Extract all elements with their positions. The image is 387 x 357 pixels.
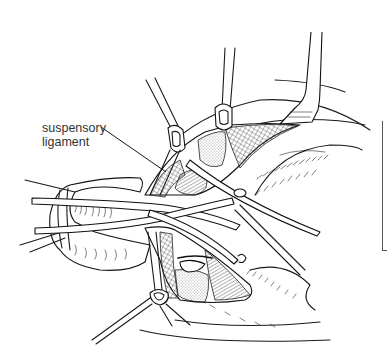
label-line-2: ligament: [42, 135, 89, 149]
label-leader-line: [101, 127, 166, 172]
suspensory-ligament-label: suspensory ligament: [42, 121, 106, 149]
illustration-drawing: [0, 0, 387, 357]
side-bracket-line: [382, 121, 387, 251]
surgical-illustration: suspensory ligament: [0, 0, 387, 357]
retractor-right: [280, 32, 322, 124]
label-line-1: suspensory: [42, 121, 106, 135]
clamp-upper-middle: [215, 48, 235, 130]
